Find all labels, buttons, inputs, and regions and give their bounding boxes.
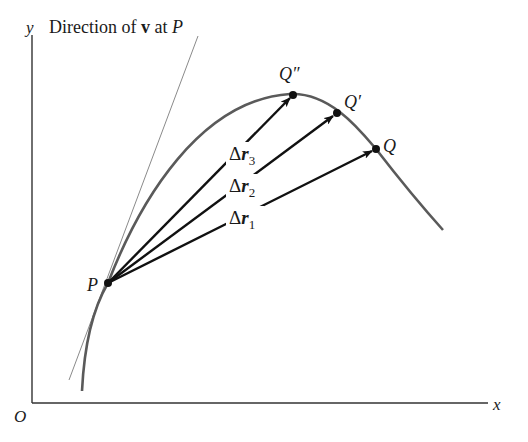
title-point: P (171, 17, 183, 37)
tangent-direction-label: Direction of v at P (49, 17, 183, 37)
x-axis-label: x (492, 395, 501, 414)
point-p-label: P (86, 275, 98, 295)
origin-label: O (14, 407, 26, 426)
title-prefix: Direction of (49, 17, 141, 37)
point-q-prime-label: Q′ (344, 92, 362, 112)
trajectory-diagram: y x O Direction of v at P Δr3 Δr2 Δr1 P … (0, 0, 528, 442)
point-q-double-prime-label: Q″ (279, 64, 300, 84)
velocity-symbol: v (141, 17, 150, 37)
point-p-marker (104, 279, 112, 287)
point-q-double-prime-marker (289, 91, 297, 99)
point-q-marker (372, 145, 380, 153)
title-mid: at (150, 17, 172, 37)
point-q-prime-marker (333, 109, 341, 117)
tangent-line (69, 36, 198, 380)
y-axis-label: y (24, 18, 34, 37)
point-q-label: Q (383, 136, 396, 156)
delta-r2-arrow (108, 116, 333, 283)
